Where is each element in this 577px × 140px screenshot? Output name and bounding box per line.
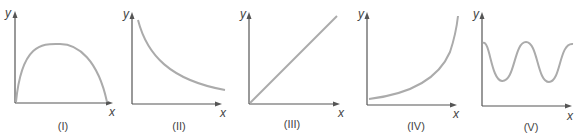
curve-periodic-oscillation — [483, 42, 573, 82]
y-axis-label: y — [358, 8, 364, 20]
y-axis-label: y — [473, 8, 479, 20]
x-axis — [249, 102, 340, 107]
graph-1-plot — [0, 0, 118, 140]
y-axis — [365, 12, 370, 105]
x-axis — [367, 103, 457, 108]
graph-4-plot — [340, 0, 460, 140]
y-axis — [480, 12, 485, 106]
x-axis — [132, 102, 222, 107]
panel-label-1: (I) — [58, 121, 68, 132]
y-axis-label: y — [240, 8, 246, 20]
panel-label-3: (III) — [284, 119, 301, 130]
curve-linear-increasing — [250, 16, 337, 103]
y-axis — [247, 12, 252, 104]
panel-label-4: (IV) — [407, 121, 425, 132]
graph-panel-5: y x (V) — [457, 0, 577, 140]
curve-decreasing-decay — [138, 20, 225, 90]
y-axis — [130, 12, 135, 104]
y-axis-label: y — [123, 8, 129, 20]
graph-panel-4: y x (IV) — [340, 0, 460, 140]
curve-exponential-growth — [369, 16, 458, 99]
curve-inverted-parabola — [16, 44, 107, 102]
graph-panel-2: y x (II) — [115, 0, 235, 140]
panel-label-2: (II) — [172, 121, 185, 132]
x-axis — [482, 104, 572, 109]
graph-panel-3: y x (III) — [225, 0, 345, 140]
x-axis-label: x — [567, 110, 573, 122]
y-axis-label: y — [5, 7, 11, 19]
panel-label-5: (V) — [524, 122, 539, 133]
graph-panel-1: y x (I) — [0, 0, 118, 140]
graph-5-plot — [457, 0, 577, 140]
x-axis — [15, 101, 113, 106]
graph-2-plot — [115, 0, 235, 140]
